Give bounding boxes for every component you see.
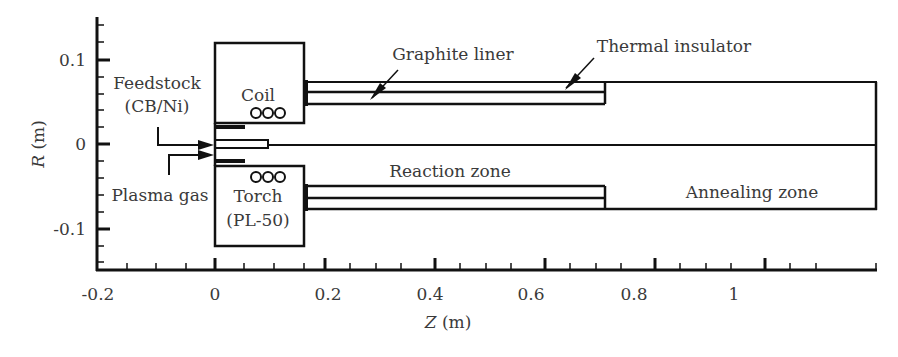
torch-label: Torch — [234, 186, 283, 206]
y-tick-0.1: 0.1 — [59, 50, 86, 70]
x-axis-title: Z (m) — [424, 312, 472, 332]
x-tick-labels: -0.2 0 0.2 0.4 0.6 0.8 1 — [82, 284, 740, 304]
x-tick-1: 1 — [729, 284, 740, 304]
feedstock-sublabel: (CB/Ni) — [125, 96, 190, 116]
torch-box — [215, 166, 304, 246]
feedstock-arrow-line — [158, 127, 200, 145]
coil-label: Coil — [241, 85, 275, 105]
y-tick-labels: 0.1 0 -0.1 — [53, 50, 86, 239]
annotations: Feedstock (CB/Ni) Plasma gas Coil Torch … — [111, 36, 818, 230]
feedstock-label: Feedstock — [113, 73, 201, 93]
x-tick-minus-0.2: -0.2 — [82, 284, 115, 304]
x-tick-0.2: 0.2 — [314, 284, 341, 304]
feedstock-arrowhead-icon — [198, 140, 214, 150]
annealing-zone-label: Annealing zone — [685, 182, 819, 202]
thermal-insulator-label: Thermal insulator — [597, 36, 752, 56]
reactor-schematic: 0.1 0 -0.1 -0.2 0 0.2 0.4 0.6 0.8 1 Z (m… — [0, 0, 898, 357]
x-tick-0: 0 — [210, 284, 221, 304]
y-tick-minus-0.1: -0.1 — [53, 219, 86, 239]
injector-tube — [215, 140, 268, 148]
graphite-liner-label: Graphite liner — [392, 44, 514, 64]
x-tick-0.4: 0.4 — [416, 284, 443, 304]
plasma-gas-arrowhead-icon — [198, 150, 214, 160]
plasma-gas-arrow-line — [169, 155, 200, 175]
plasma-gas-label: Plasma gas — [111, 185, 208, 205]
x-tick-0.6: 0.6 — [517, 284, 544, 304]
x-tick-0.8: 0.8 — [620, 284, 647, 304]
reaction-zone-label: Reaction zone — [389, 161, 511, 181]
y-tick-0: 0 — [75, 134, 86, 154]
y-axis-title: R (m) — [28, 120, 48, 169]
torch-model-label: (PL-50) — [226, 210, 289, 230]
